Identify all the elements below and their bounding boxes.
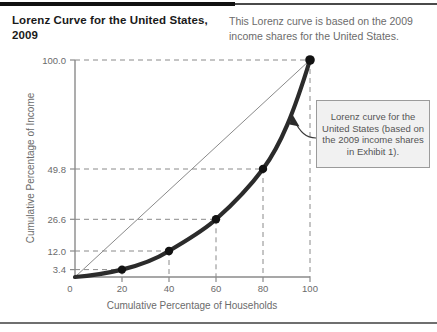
data-point-20-3.4 [118, 265, 126, 273]
data-point-40-12.0 [165, 247, 173, 255]
callout-box: Lorenz curve for the United States (base… [316, 100, 430, 168]
x-tick-label-20: 20 [117, 283, 128, 294]
x-tick-label-40: 40 [164, 283, 175, 294]
callout-arrow [294, 120, 316, 138]
y-axis-title: Cumulative Percentage of Income [25, 92, 36, 243]
data-point-80-49.8 [259, 165, 267, 173]
x-axis-ticks [122, 277, 310, 282]
lorenz-curve-figure: Lorenz Curve for the United States, 2009… [0, 0, 437, 332]
y-tick-label-49-8: 49.8 [48, 164, 67, 175]
data-point-100-100.0 [305, 55, 315, 65]
data-point-60-26.6 [212, 215, 220, 223]
y-axis-ticks [70, 60, 75, 270]
y-tick-label-0: 0 [67, 283, 72, 294]
y-tick-label-100: 100.0 [42, 55, 66, 66]
x-tick-label-100: 100 [302, 283, 318, 294]
y-tick-label-12-0: 12.0 [48, 246, 67, 257]
callout-box-text: Lorenz curve for the United States (base… [321, 111, 425, 157]
x-tick-label-80: 80 [258, 283, 269, 294]
x-axis-title: Cumulative Percentage of Households [107, 300, 278, 311]
line-of-equality [75, 60, 310, 277]
y-tick-label-26-6: 26.6 [48, 214, 67, 225]
y-tick-label-3-4: 3.4 [53, 264, 66, 275]
x-tick-label-60: 60 [211, 283, 222, 294]
